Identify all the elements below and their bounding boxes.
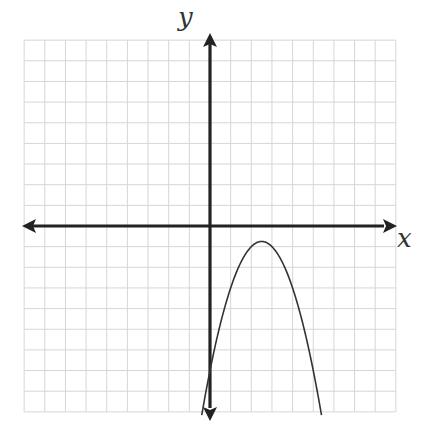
axes	[22, 33, 397, 421]
y-axis-down-arrow-icon	[203, 407, 217, 421]
coordinate-plane: x y	[0, 0, 434, 433]
y-axis-label: y	[177, 2, 193, 32]
x-axis-right-arrow-icon	[383, 219, 397, 233]
x-axis-label: x	[397, 223, 412, 253]
